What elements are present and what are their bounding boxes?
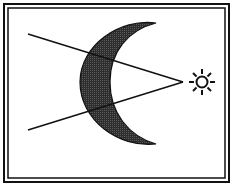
moon-sun-diagram (0, 0, 235, 190)
crescent-moon-icon (80, 22, 156, 144)
diagram-frame (0, 0, 235, 190)
sun-icon (189, 69, 215, 95)
